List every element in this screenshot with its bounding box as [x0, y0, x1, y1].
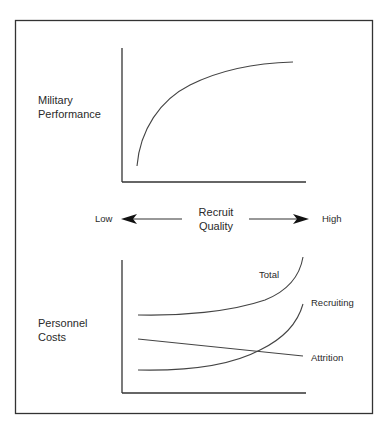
top-panel-axes — [122, 48, 306, 182]
recruit-quality-label: Recruit Quality — [199, 205, 234, 233]
recruit-quality-line1: Recruit — [199, 205, 234, 219]
low-label: Low — [95, 212, 112, 226]
attrition-series-label: Attrition — [311, 351, 343, 365]
top-ylabel-line2: Performance — [38, 107, 101, 121]
top-ylabel: Military Performance — [38, 93, 101, 121]
recruiting-cost-curve — [138, 304, 303, 370]
bottom-ylabel-line2: Costs — [38, 330, 88, 344]
bottom-ylabel-line1: Personnel — [38, 316, 88, 330]
top-ylabel-line1: Military — [38, 93, 101, 107]
high-label: High — [322, 212, 342, 226]
recruit-quality-line2: Quality — [199, 219, 234, 233]
total-series-label: Total — [259, 268, 279, 282]
bottom-ylabel: Personnel Costs — [38, 316, 88, 344]
performance-curve — [137, 62, 293, 166]
recruiting-series-label: Recruiting — [311, 296, 354, 310]
attrition-cost-line — [138, 339, 303, 356]
total-cost-curve — [138, 257, 303, 315]
